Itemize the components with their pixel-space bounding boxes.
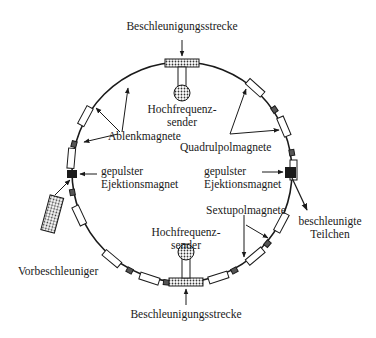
synchrotron-diagram <box>0 0 376 338</box>
label-extraction-kicker-1: gepulster <box>204 165 246 178</box>
label-accelerated-particles-2: Teilchen <box>290 228 370 241</box>
label-bottom-rf-1: Hochfrequenz- <box>146 226 226 239</box>
label-quadrupole-magnets: Quadrulpolmagnete <box>180 141 271 154</box>
extraction-kicker <box>285 167 296 178</box>
label-bottom-rf-2: sender <box>146 239 226 252</box>
injection-kicker <box>67 170 77 178</box>
label-top-rf-1: Hochfrequenz- <box>142 103 222 116</box>
label-top-rf-2: sender <box>142 116 222 129</box>
top-accelerating-cavity <box>165 59 199 67</box>
bottom-accelerating-cavity <box>169 278 203 286</box>
label-injection-kicker-2: Ejektionsmagnet <box>101 178 178 191</box>
label-preaccelerator: Vorbeschleuniger <box>18 265 98 278</box>
label-dipole-magnets: Ablenkmagnete <box>108 130 181 143</box>
top-rf-transmitter <box>174 85 190 101</box>
label-sextupole-magnets: Sextupolmagnete <box>206 204 286 217</box>
label-top-accelerating-section: Beschleunigungsstrecke <box>122 20 242 33</box>
label-bottom-accelerating-section: Beschleunigungsstrecke <box>126 308 246 321</box>
label-accelerated-particles-1: beschleunigte <box>290 215 370 228</box>
preaccelerator <box>41 195 64 233</box>
label-extraction-kicker-2: Ejektionsmagnet <box>204 178 281 191</box>
label-injection-kicker-1: gepulster <box>101 165 143 178</box>
